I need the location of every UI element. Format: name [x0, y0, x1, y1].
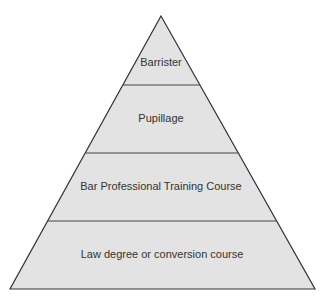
- level-label-bptc: Bar Professional Training Course: [80, 180, 241, 192]
- pyramid-diagram: Barrister Pupillage Bar Professional Tra…: [0, 0, 324, 301]
- level-label-law-degree: Law degree or conversion course: [81, 248, 244, 260]
- level-label-pupillage: Pupillage: [138, 112, 183, 124]
- level-label-barrister: Barrister: [140, 56, 182, 68]
